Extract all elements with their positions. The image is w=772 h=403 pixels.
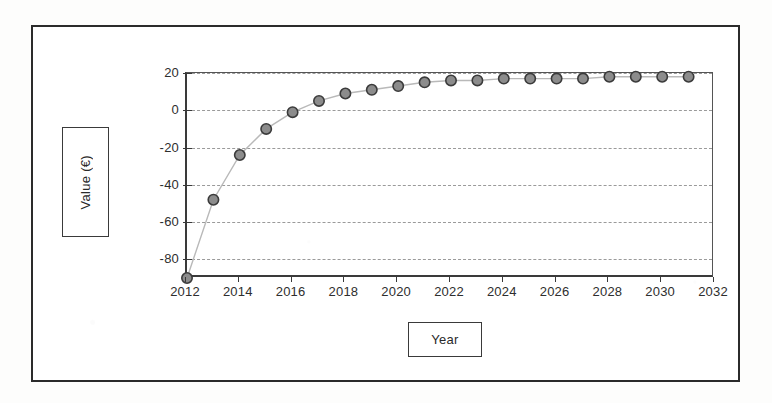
x-axis-tick-mark [291,277,292,282]
data-point [683,72,693,82]
x-axis-tick-mark [185,277,186,282]
x-axis-tick-label: 2032 [690,284,736,299]
data-point [261,124,271,134]
y-axis-tick-label: 20 [137,65,179,80]
data-point [235,150,245,160]
x-axis-tick-label: 2020 [373,284,419,299]
y-axis-tick-label: -80 [137,251,179,266]
data-point [208,195,218,205]
plot-area [185,72,713,277]
data-point [446,75,456,85]
data-point [472,75,482,85]
series-plot [187,73,715,278]
data-point [419,77,429,87]
data-point [657,72,667,82]
x-axis-tick-label: 2022 [426,284,472,299]
y-axis-title-box: Value (€) [62,127,109,237]
data-point [551,73,561,83]
x-axis-tick-mark [449,277,450,282]
x-axis-tick-mark [502,277,503,282]
x-axis-tick-marks [185,277,713,283]
x-axis-tick-mark [238,277,239,282]
x-axis-tick-label: 2014 [215,284,261,299]
scan-canvas: Value (€) 200-20-40-60-80 20122014201620… [0,0,772,403]
y-axis-tick-label: -20 [137,139,179,154]
series-markers [182,72,694,284]
series-line [187,77,689,278]
y-axis-title: Value (€) [78,155,93,209]
x-axis-tick-mark [607,277,608,282]
y-axis-tick-labels: 200-20-40-60-80 [133,72,179,277]
x-axis-tick-label: 2024 [479,284,525,299]
x-axis-tick-mark [713,277,714,282]
x-axis-tick-mark [396,277,397,282]
x-axis-tick-label: 2028 [584,284,630,299]
y-axis-tick-label: -40 [137,176,179,191]
x-axis-tick-label: 2012 [162,284,208,299]
data-point [578,73,588,83]
data-point [604,72,614,82]
x-axis-tick-mark [555,277,556,282]
data-point [525,73,535,83]
data-point [340,88,350,98]
x-axis-tick-labels: 2012201420162018202020222024202620282030… [185,284,713,304]
x-axis-tick-mark [660,277,661,282]
x-axis-title: Year [431,332,458,347]
x-axis-tick-label: 2026 [532,284,578,299]
y-axis-tick-label: 0 [137,102,179,117]
data-point [287,107,297,117]
x-axis-title-box: Year [408,322,482,357]
data-point [314,96,324,106]
data-point [367,85,377,95]
x-axis-tick-label: 2018 [320,284,366,299]
data-point [499,73,509,83]
x-axis-tick-label: 2016 [268,284,314,299]
y-axis-tick-label: -60 [137,214,179,229]
data-point [631,72,641,82]
data-point [393,81,403,91]
x-axis-tick-mark [343,277,344,282]
x-axis-tick-label: 2030 [637,284,683,299]
